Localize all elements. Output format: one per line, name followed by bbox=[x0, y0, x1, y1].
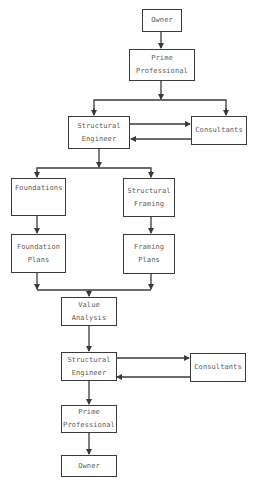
node-structural-engineer-bottom: Structural Engineer bbox=[61, 352, 117, 381]
node-label-line1: Prime bbox=[151, 52, 173, 65]
node-structural-framing: Structural Framing bbox=[123, 178, 175, 217]
node-label-line2: Plans bbox=[138, 254, 160, 267]
node-label: Owner bbox=[78, 460, 100, 473]
node-label-line1: Structural bbox=[77, 120, 120, 133]
node-owner-bottom: Owner bbox=[61, 455, 117, 477]
node-prime-professional-bottom: Prime Professional bbox=[61, 405, 117, 433]
node-label-line1: Foundation bbox=[17, 241, 60, 254]
node-value-analysis: Value Analysis bbox=[61, 297, 117, 326]
node-label-line1: Framing bbox=[134, 241, 164, 254]
node-label-line2: Plans bbox=[28, 254, 50, 267]
node-label-line1: Prime bbox=[78, 406, 100, 419]
node-consultants-bottom: Consultants bbox=[190, 353, 246, 382]
node-label-line2: Analysis bbox=[72, 312, 107, 325]
node-label: Foundations bbox=[15, 182, 62, 195]
node-label-line2: Professional bbox=[63, 419, 115, 432]
node-prime-professional-top: Prime Professional bbox=[129, 49, 195, 81]
node-label-line1: Structural bbox=[127, 185, 170, 198]
node-foundations: Foundations bbox=[11, 178, 66, 216]
flowchart-canvas: Owner Prime Professional Structural Engi… bbox=[0, 0, 260, 483]
node-label-line2: Professional bbox=[136, 65, 188, 78]
node-structural-engineer-top: Structural Engineer bbox=[68, 116, 130, 149]
node-label: Consultants bbox=[195, 124, 242, 137]
node-label: Consultants bbox=[194, 361, 241, 374]
node-label-line2: Engineer bbox=[72, 367, 107, 380]
node-foundation-plans: Foundation Plans bbox=[11, 234, 66, 273]
node-owner-top: Owner bbox=[142, 9, 182, 32]
node-label: Owner bbox=[151, 14, 173, 27]
split-line bbox=[37, 168, 151, 177]
node-label-line1: Value bbox=[78, 299, 100, 312]
branch-line-top bbox=[94, 100, 226, 115]
node-consultants-top: Consultants bbox=[191, 116, 247, 145]
node-framing-plans: Framing Plans bbox=[123, 234, 175, 274]
node-label-line2: Engineer bbox=[82, 133, 117, 146]
node-label-line1: Structural bbox=[67, 354, 110, 367]
node-label-line2: Framing bbox=[134, 198, 164, 211]
